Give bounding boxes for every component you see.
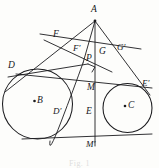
vertex-dot-a [94, 20, 97, 23]
figure-caption: Fig. 1 [0, 159, 159, 168]
label-e: E [86, 107, 92, 117]
right-angle-marker-p [88, 64, 95, 72]
arc-p-to-dprime [50, 63, 83, 146]
label-g: G [99, 47, 106, 57]
geometry-figure: A B C D D′ E E′ F F′ G G′ M M′ P Fig. 1 [0, 0, 159, 168]
label-f-prime: F′ [73, 44, 80, 53]
center-dot-c [124, 105, 127, 108]
label-g-prime: G′ [117, 43, 125, 52]
label-p: P [86, 54, 92, 64]
tangent-a-to-d [5, 21, 95, 92]
label-b: B [37, 96, 43, 106]
label-a: A [91, 5, 97, 15]
label-c: C [128, 101, 134, 111]
label-f: F [53, 30, 59, 40]
label-m-prime: M′ [86, 140, 95, 149]
label-m: M [87, 83, 95, 93]
center-dot-b [33, 100, 36, 103]
label-d: D [8, 61, 15, 71]
secant-p-lower-left [8, 64, 88, 77]
label-d-prime: D′ [53, 107, 61, 116]
common-tangent-upper [16, 74, 152, 88]
label-e-prime: E′ [142, 79, 149, 88]
geometry-canvas [0, 0, 159, 168]
